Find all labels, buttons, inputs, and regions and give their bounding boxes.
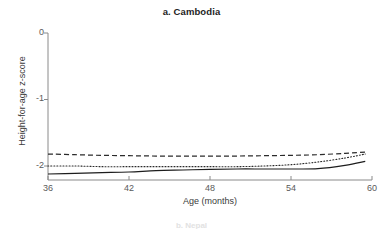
x-axis — [48, 176, 372, 180]
chart-figure: a. Cambodia Height-for-age z-score 0 -1 … — [0, 0, 383, 229]
next-panel-partial-title: b. Nepal — [0, 221, 383, 229]
data-series-layer — [48, 152, 365, 174]
series-dotted-curve — [48, 154, 365, 167]
y-axis — [44, 33, 48, 180]
plot-area — [0, 0, 383, 229]
series-dashed-curve — [48, 152, 365, 156]
series-solid-curve — [48, 161, 365, 174]
